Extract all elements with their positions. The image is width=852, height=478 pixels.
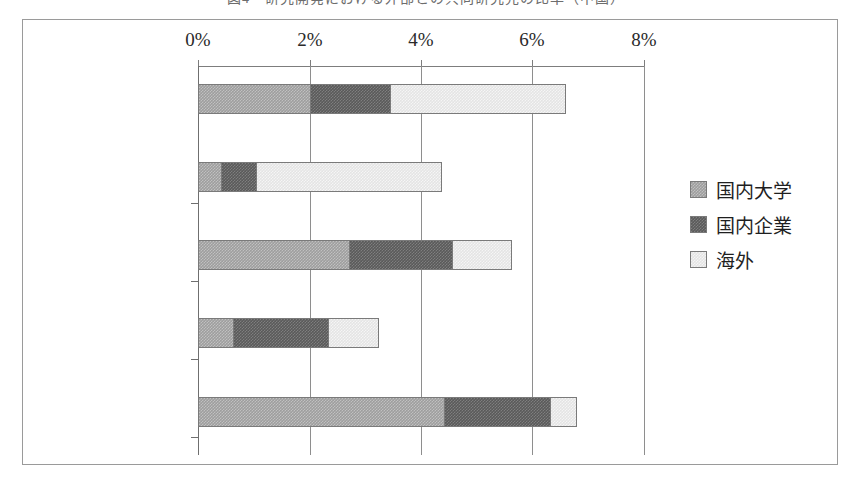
bar-segment-overseas (550, 397, 576, 427)
legend-label-domestic-company: 国内企業 (716, 211, 792, 238)
legend-swatch-icon (690, 251, 707, 268)
xtick-mark-0 (198, 60, 199, 66)
legend-label-overseas: 海外 (716, 246, 754, 273)
xtick-label-0: 0% (158, 29, 238, 51)
bar-segment-domestic-university (198, 318, 233, 348)
xtick-label-8: 8% (604, 29, 684, 51)
bar-segment-domestic-company (310, 84, 391, 114)
gridline-8 (644, 66, 645, 455)
legend-item-domestic-university: 国内大学 (690, 172, 820, 207)
bar-segment-domestic-university (198, 240, 349, 270)
bar-segment-overseas (328, 318, 379, 348)
legend-swatch-icon (690, 216, 707, 233)
chart-legend: 国内大学 国内企業 海外 (690, 172, 820, 277)
bar-segment-domestic-company (233, 318, 328, 348)
ytick-mark-3 (191, 359, 198, 360)
bar-segment-domestic-university (198, 84, 310, 114)
legend-label-domestic-university: 国内大学 (716, 176, 792, 203)
xtick-mark-4 (421, 60, 422, 66)
plot-area: 0% 2% 4% 6% 8% 外資（合弁） 外資（独資） 台湾等（合弁） 台湾等… (198, 66, 644, 455)
bar-segment-overseas (256, 162, 442, 192)
legend-swatch-icon (690, 181, 707, 198)
ytick-mark-1 (191, 203, 198, 204)
xtick-mark-2 (310, 60, 311, 66)
bar-row-4 (198, 397, 577, 427)
figure-page: 図4 研究開発における外部との共同研究先の比率（中国） 0% 2% 4% 6% … (0, 0, 852, 478)
xtick-label-2: 2% (270, 29, 350, 51)
bar-row-0 (198, 84, 566, 114)
bar-segment-domestic-company (349, 240, 452, 270)
xtick-mark-8 (644, 60, 645, 66)
bar-row-1 (198, 162, 442, 192)
xtick-label-4: 4% (381, 29, 461, 51)
figure-title-cropped: 図4 研究開発における外部との共同研究先の比率（中国） (0, 0, 852, 11)
xtick-mark-6 (532, 60, 533, 66)
legend-item-domestic-company: 国内企業 (690, 207, 820, 242)
bar-segment-domestic-company (221, 162, 256, 192)
bar-segment-overseas (390, 84, 566, 114)
xtick-label-6: 6% (492, 29, 572, 51)
bar-segment-domestic-company (444, 397, 550, 427)
bar-segment-domestic-university (198, 397, 444, 427)
legend-item-overseas: 海外 (690, 242, 820, 277)
ytick-mark-4 (191, 437, 198, 438)
ytick-mark-2 (191, 281, 198, 282)
bar-segment-overseas (452, 240, 512, 270)
figure-title-text: 図4 研究開発における外部との共同研究先の比率（中国） (0, 0, 852, 7)
bar-row-2 (198, 240, 512, 270)
bar-row-3 (198, 318, 379, 348)
bar-segment-domestic-university (198, 162, 221, 192)
